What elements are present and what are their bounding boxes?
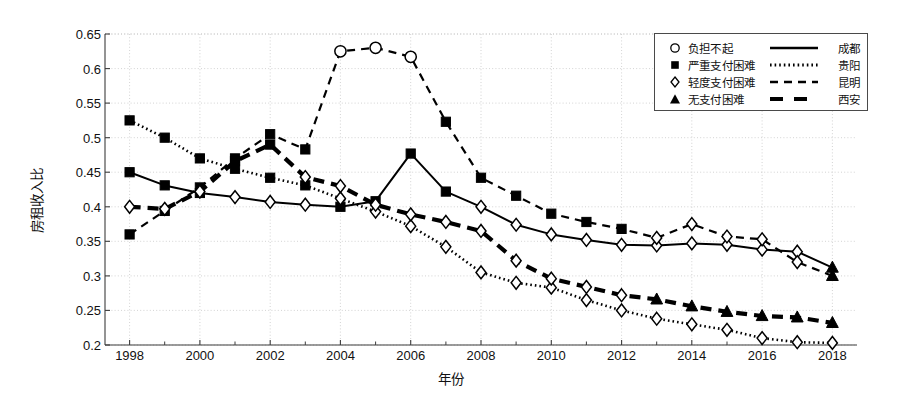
x-axis-tick-label: 1998 <box>115 348 144 363</box>
x-axis-tick-label: 2016 <box>748 348 777 363</box>
legend-marker-cell <box>662 58 688 72</box>
data-point-square-filled <box>230 157 239 166</box>
data-point-square-filled <box>125 230 134 239</box>
legend-series-name: 成都 <box>824 40 860 56</box>
data-point-square-filled <box>441 117 450 126</box>
x-axis-tick-label: 2004 <box>326 348 355 363</box>
data-point-diamond-open <box>617 238 627 251</box>
data-point-square-filled <box>125 116 134 125</box>
legend-line-solid <box>768 42 820 54</box>
data-point-square-filled <box>547 209 556 218</box>
data-point-diamond-open <box>511 276 521 289</box>
legend-marker-diamond-open <box>668 75 682 89</box>
legend-line-cell <box>764 76 824 88</box>
legend-marker-label: 负担不起 <box>688 40 764 56</box>
data-point-diamond-open <box>581 294 591 307</box>
data-point-diamond-open <box>687 237 697 250</box>
legend-marker-cell <box>662 41 688 55</box>
data-point-diamond-open <box>511 218 521 231</box>
legend-marker-circle-open <box>668 41 682 55</box>
data-point-circle-open <box>370 42 381 53</box>
data-point-square-filled <box>195 154 204 163</box>
data-point-diamond-open <box>335 180 345 193</box>
legend-line-dashed <box>768 76 820 88</box>
data-point-diamond-open <box>757 332 767 345</box>
x-axis-tick-label: 2012 <box>607 348 636 363</box>
legend-row: 轻度支付困难昆明 <box>662 73 860 90</box>
data-point-square-filled <box>266 140 275 149</box>
data-point-diamond-open <box>546 228 556 241</box>
legend-marker-label: 轻度支付困难 <box>688 74 764 90</box>
data-point-diamond-open <box>265 196 275 209</box>
data-point-diamond-open <box>792 336 802 349</box>
legend-series-name: 昆明 <box>824 74 860 90</box>
data-point-square-filled <box>582 217 591 226</box>
data-point-diamond-open <box>441 240 451 253</box>
x-axis-tick-label: 2002 <box>256 348 285 363</box>
x-axis-tick-label: 2000 <box>185 348 214 363</box>
data-point-square-filled <box>476 173 485 182</box>
legend-line-cell <box>764 59 824 71</box>
data-point-diamond-open <box>617 304 627 317</box>
legend-series-name: 贵阳 <box>824 57 860 73</box>
data-point-square-filled <box>160 133 169 142</box>
data-point-diamond-open <box>300 198 310 211</box>
data-point-diamond-open <box>687 218 697 231</box>
data-point-square-filled <box>160 181 169 190</box>
legend-marker-cell <box>662 92 688 106</box>
data-point-diamond-open <box>687 318 697 331</box>
data-point-diamond-open <box>581 234 591 247</box>
chart-legend: 负担不起成都严重支付困难贵阳轻度支付困难昆明无支付困难西安 <box>654 33 868 111</box>
data-point-diamond-open <box>230 191 240 204</box>
data-point-diamond-open <box>757 233 767 246</box>
data-point-diamond-open <box>722 323 732 336</box>
data-point-diamond-open <box>652 312 662 325</box>
data-point-square-filled <box>301 145 310 154</box>
data-point-square-filled <box>125 168 134 177</box>
x-axis-title: 年份 <box>0 368 902 388</box>
data-point-diamond-open <box>792 256 802 269</box>
data-point-diamond-open <box>546 272 556 285</box>
data-point-square-filled <box>441 187 450 196</box>
chart-figure: 0.20.250.30.350.40.450.50.550.60.65 房租收入… <box>0 0 902 395</box>
legend-marker-square-filled <box>668 58 682 72</box>
data-point-circle-open <box>335 46 346 57</box>
data-point-square-filled <box>406 149 415 158</box>
legend-line-cell <box>764 93 824 105</box>
x-axis-tick-label: 2018 <box>818 348 847 363</box>
data-point-diamond-open <box>476 266 486 279</box>
x-axis-tick-label: 2014 <box>677 348 706 363</box>
legend-marker-triangle-filled <box>668 92 682 106</box>
data-point-square-filled <box>617 224 626 233</box>
x-axis-tick-label: 2008 <box>467 348 496 363</box>
legend-marker-label: 严重支付困难 <box>688 57 764 73</box>
data-point-diamond-open <box>406 208 416 221</box>
legend-row: 负担不起成都 <box>662 39 860 56</box>
x-axis-tick-label: 2006 <box>396 348 425 363</box>
data-point-diamond-open <box>617 289 627 302</box>
legend-line-thick-dash <box>768 93 820 105</box>
legend-marker-label: 无支付困难 <box>688 91 764 107</box>
data-point-square-filled <box>266 173 275 182</box>
legend-row: 无支付困难西安 <box>662 90 860 107</box>
legend-line-dotted <box>768 59 820 71</box>
data-point-diamond-open <box>476 200 486 213</box>
y-axis-title: 房租收入比 <box>26 140 46 260</box>
data-point-diamond-open <box>441 216 451 229</box>
data-point-square-filled <box>266 130 275 139</box>
data-point-diamond-open <box>581 281 591 294</box>
x-axis-tick-label: 2010 <box>537 348 566 363</box>
data-point-square-filled <box>512 191 521 200</box>
legend-row: 严重支付困难贵阳 <box>662 56 860 73</box>
legend-series-name: 西安 <box>824 91 860 107</box>
data-point-diamond-open <box>125 200 135 213</box>
data-point-circle-open <box>405 51 416 62</box>
legend-line-cell <box>764 42 824 54</box>
legend-marker-cell <box>662 75 688 89</box>
